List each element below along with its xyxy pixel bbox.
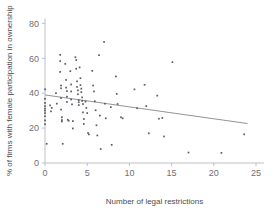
- data-point: [44, 89, 46, 91]
- data-point: [65, 87, 67, 89]
- y-tick-label-20: 20: [29, 123, 39, 133]
- data-point: [116, 93, 118, 95]
- data-point: [44, 112, 46, 114]
- data-point: [122, 117, 124, 119]
- data-point: [72, 120, 74, 122]
- data-point: [221, 152, 223, 154]
- data-point: [59, 54, 61, 56]
- data-point: [70, 99, 72, 101]
- data-point: [82, 103, 84, 105]
- data-point: [78, 99, 80, 101]
- data-point: [70, 91, 72, 93]
- y-tick-label-60: 60: [29, 54, 39, 64]
- data-point: [44, 108, 46, 110]
- data-point: [83, 123, 85, 125]
- data-point: [71, 104, 73, 106]
- axis-labels: 0204060800510152025Number of legal restr…: [5, 5, 261, 206]
- data-point: [134, 89, 136, 91]
- data-point: [145, 105, 147, 107]
- y-tick-label-0: 0: [34, 158, 39, 168]
- data-point: [172, 61, 174, 63]
- data-point: [79, 67, 81, 69]
- data-point: [243, 134, 245, 136]
- data-point: [76, 86, 78, 88]
- data-point: [78, 104, 80, 106]
- data-point: [120, 116, 122, 118]
- data-point: [81, 97, 83, 99]
- data-point: [80, 91, 82, 93]
- data-point: [77, 93, 79, 95]
- data-point: [80, 77, 82, 79]
- data-point: [72, 128, 74, 130]
- data-point: [161, 117, 163, 119]
- data-point: [65, 79, 67, 81]
- data-point: [75, 68, 77, 70]
- data-point: [95, 109, 97, 111]
- data-point: [99, 115, 101, 117]
- data-point: [44, 120, 46, 122]
- data-point: [96, 124, 98, 126]
- data-point: [115, 76, 117, 78]
- data-point: [59, 71, 61, 73]
- data-point: [85, 101, 87, 103]
- data-point: [44, 98, 46, 100]
- data-point: [105, 117, 107, 119]
- data-point: [51, 107, 53, 109]
- data-point: [86, 112, 88, 114]
- trend-line: [45, 95, 248, 124]
- data-point: [49, 105, 51, 107]
- data-point: [100, 148, 102, 150]
- data-point: [78, 101, 80, 103]
- data-point: [144, 84, 146, 86]
- data-point: [80, 84, 82, 86]
- data-point: [56, 103, 58, 105]
- data-point: [55, 92, 57, 94]
- data-point: [44, 115, 46, 117]
- data-point: [76, 80, 78, 82]
- data-point: [96, 135, 98, 137]
- y-tick-label-40: 40: [29, 88, 39, 98]
- data-point: [60, 109, 62, 111]
- chart-figure: 0204060800510152025Number of legal restr…: [0, 0, 279, 210]
- data-point: [83, 118, 85, 120]
- data-point: [69, 70, 71, 72]
- x-tick-label-15: 15: [167, 168, 177, 178]
- data-point: [156, 95, 158, 97]
- data-point: [66, 90, 68, 92]
- data-point: [60, 97, 62, 99]
- data-point: [91, 70, 93, 72]
- data-point: [66, 101, 68, 103]
- y-axis-title: % of firms with female participation in …: [5, 5, 14, 176]
- data-point: [110, 106, 112, 108]
- data-point: [68, 120, 70, 122]
- data-point: [81, 100, 83, 102]
- data-point: [86, 107, 88, 109]
- x-tick-label-0: 0: [42, 168, 47, 178]
- data-point: [163, 136, 165, 138]
- data-point: [70, 84, 72, 86]
- data-point: [82, 112, 84, 114]
- data-point: [80, 88, 82, 90]
- data-point: [44, 123, 46, 125]
- data-point: [44, 110, 46, 112]
- x-tick-label-20: 20: [209, 168, 219, 178]
- data-point: [50, 111, 52, 113]
- data-point: [98, 54, 100, 56]
- data-point: [158, 118, 160, 120]
- data-point: [61, 121, 63, 123]
- data-point: [104, 103, 106, 105]
- data-point: [46, 143, 48, 145]
- axes: [42, 18, 264, 166]
- data-point: [60, 87, 62, 89]
- data-point: [136, 107, 138, 109]
- x-tick-label-25: 25: [251, 168, 261, 178]
- data-point: [111, 144, 113, 146]
- x-axis-title: Number of legal restrictions: [106, 197, 203, 206]
- data-point: [60, 85, 62, 87]
- scatter-plot: 0204060800510152025Number of legal restr…: [0, 0, 279, 210]
- data-point: [61, 116, 63, 118]
- x-tick-label-5: 5: [85, 168, 90, 178]
- data-point: [59, 60, 61, 62]
- data-point: [88, 134, 90, 136]
- data-point: [77, 90, 79, 92]
